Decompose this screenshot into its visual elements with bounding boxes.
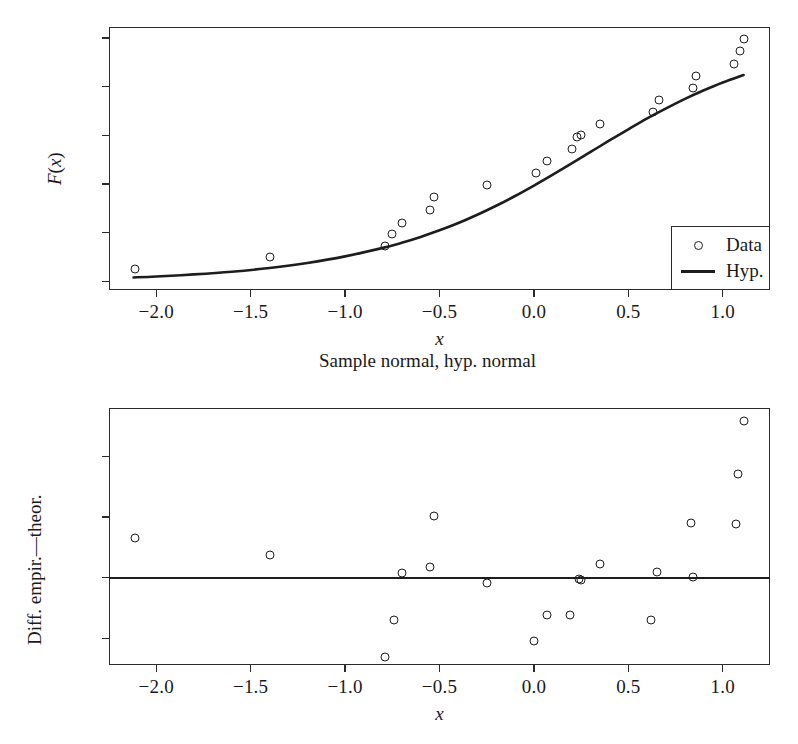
data-point-marker: [131, 265, 140, 274]
data-point-marker: [739, 416, 748, 425]
x-tick: [344, 290, 345, 297]
x-tick: [250, 665, 251, 672]
data-point-marker: [733, 470, 742, 479]
x-tick-label: −0.5: [422, 676, 457, 698]
data-point-marker: [397, 568, 406, 577]
data-point-marker: [531, 169, 540, 178]
x-tick-label: −1.0: [327, 676, 362, 698]
y-tick: [102, 37, 109, 38]
legend-label-data: Data: [726, 234, 762, 256]
x-tick-label: 1.0: [711, 676, 735, 698]
y-tick: [102, 232, 109, 233]
y-tick: [102, 135, 109, 136]
x-tick-label: −0.5: [422, 301, 457, 323]
data-point-marker: [380, 242, 389, 251]
data-point-marker: [543, 610, 552, 619]
data-point-marker: [732, 520, 741, 529]
data-point-marker: [397, 219, 406, 228]
y-tick: [102, 516, 109, 517]
y-tick: [102, 86, 109, 87]
x-tick-label: 0.0: [522, 676, 546, 698]
data-point-marker: [652, 567, 661, 576]
data-point-marker: [730, 59, 739, 68]
x-tick-label: 0.5: [616, 676, 640, 698]
x-tick: [439, 665, 440, 672]
cdf-plot-canvas: [0, 0, 798, 400]
data-point-marker: [692, 71, 701, 80]
data-point-marker: [596, 559, 605, 568]
legend-item-data: Data: [676, 233, 762, 257]
cdf-y-axis-label: F(x): [44, 152, 66, 185]
x-tick-label: −1.5: [233, 301, 268, 323]
y-tick: [102, 281, 109, 282]
cdf-legend: Data Hyp.: [671, 226, 770, 290]
line-sample-icon: [676, 270, 720, 273]
x-tick-label: −2.0: [139, 301, 174, 323]
x-tick: [533, 665, 534, 672]
x-tick: [156, 290, 157, 297]
x-tick-label: −1.0: [327, 301, 362, 323]
data-point-marker: [265, 551, 274, 560]
figure-root: −2.0−1.5−1.0−0.50.00.51.00.00.20.40.60.8…: [0, 0, 798, 744]
data-point-marker: [543, 156, 552, 165]
data-point-marker: [429, 511, 438, 520]
x-tick: [344, 665, 345, 672]
x-tick: [628, 290, 629, 297]
x-tick-label: −1.5: [233, 676, 268, 698]
data-point-marker: [735, 47, 744, 56]
x-tick: [533, 290, 534, 297]
open-circle-icon: [676, 241, 720, 250]
data-point-marker: [654, 96, 663, 105]
data-point-marker: [390, 615, 399, 624]
hypothesis-curve: [134, 75, 744, 277]
data-point-marker: [265, 253, 274, 262]
figure-caption: Sample normal, hyp. normal: [319, 350, 536, 372]
data-point-marker: [429, 193, 438, 202]
data-point-marker: [426, 563, 435, 572]
data-point-marker: [388, 229, 397, 238]
x-tick: [156, 665, 157, 672]
x-tick-label: −2.0: [139, 676, 174, 698]
data-point-marker: [380, 652, 389, 661]
residual-plot-frame: [109, 408, 770, 665]
y-tick: [102, 183, 109, 184]
data-point-marker: [648, 108, 657, 117]
data-point-marker: [565, 610, 574, 619]
residual-x-axis-label: x: [435, 703, 443, 725]
data-point-marker: [567, 144, 576, 153]
data-point-marker: [688, 572, 697, 581]
x-tick-label: 0.0: [522, 301, 546, 323]
y-tick: [102, 456, 109, 457]
x-tick: [250, 290, 251, 297]
data-point-marker: [131, 534, 140, 543]
x-tick: [628, 665, 629, 672]
x-tick-label: 1.0: [711, 301, 735, 323]
data-point-marker: [577, 575, 586, 584]
data-point-marker: [686, 519, 695, 528]
data-point-marker: [688, 83, 697, 92]
x-tick-label: 0.5: [616, 301, 640, 323]
data-point-marker: [739, 35, 748, 44]
residual-y-axis-label: Diff. empir.—theor.: [24, 494, 46, 645]
data-point-marker: [596, 120, 605, 129]
legend-item-hyp: Hyp.: [676, 259, 763, 283]
y-tick: [102, 638, 109, 639]
data-point-marker: [529, 637, 538, 646]
cdf-x-axis-label: x: [435, 328, 443, 350]
data-point-marker: [647, 616, 656, 625]
data-point-marker: [482, 579, 491, 588]
residual-zero-reference-line: [109, 577, 770, 579]
data-point-marker: [426, 205, 435, 214]
x-tick: [722, 290, 723, 297]
y-tick: [102, 577, 109, 578]
legend-label-hyp: Hyp.: [726, 260, 763, 282]
x-tick: [439, 290, 440, 297]
data-point-marker: [577, 131, 586, 140]
x-tick: [722, 665, 723, 672]
data-point-marker: [482, 181, 491, 190]
